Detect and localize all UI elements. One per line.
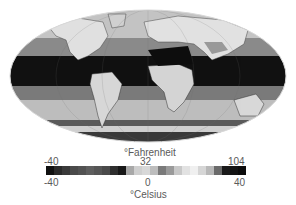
colorbar-segment bbox=[86, 166, 94, 175]
colorbar-segment bbox=[94, 166, 102, 175]
colorbar-segment bbox=[182, 166, 190, 175]
colorbar-segment bbox=[54, 166, 62, 175]
colorbar-segment bbox=[118, 166, 126, 175]
colorbar-segment bbox=[46, 166, 54, 175]
colorbar-segment bbox=[230, 166, 238, 175]
colorbar-segment bbox=[142, 166, 150, 175]
celsius-tick-min: -40 bbox=[44, 178, 58, 188]
celsius-tick-max: 40 bbox=[234, 178, 245, 188]
colorbar-segment bbox=[214, 166, 222, 175]
world-temperature-map bbox=[8, 8, 288, 144]
colorbar-segment bbox=[222, 166, 230, 175]
colorbar-segment bbox=[166, 166, 174, 175]
colorbar-segment bbox=[190, 166, 198, 175]
colorbar-segment bbox=[150, 166, 158, 175]
colorbar-segment bbox=[238, 166, 246, 175]
colorbar-segment bbox=[134, 166, 142, 175]
colorbar-segment bbox=[158, 166, 166, 175]
celsius-tick-mid: 0 bbox=[145, 178, 151, 188]
colorbar-segment bbox=[126, 166, 134, 175]
colorbar-segment bbox=[102, 166, 110, 175]
colorbar-segment bbox=[206, 166, 214, 175]
celsius-unit-label: °Celsius bbox=[130, 190, 167, 200]
temperature-colorbar bbox=[46, 166, 246, 175]
colorbar-segment bbox=[78, 166, 86, 175]
colorbar-segment bbox=[62, 166, 70, 175]
colorbar-segment bbox=[174, 166, 182, 175]
colorbar-segment bbox=[110, 166, 118, 175]
colorbar-segment bbox=[70, 166, 78, 175]
colorbar-segment bbox=[198, 166, 206, 175]
